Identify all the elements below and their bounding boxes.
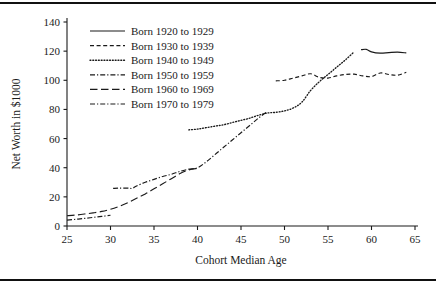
y-tick-label: 80 <box>49 103 61 115</box>
y-axis-label: Net Worth in $1000 <box>10 78 22 169</box>
series-line-6 <box>113 169 189 188</box>
x-tick-label: 40 <box>192 233 204 245</box>
series-line-6 <box>67 215 111 220</box>
chart-figure: 020406080100120140 253035404550556065 Ne… <box>0 0 436 283</box>
series-line-4 <box>189 112 267 170</box>
y-tick-label: 120 <box>44 45 61 57</box>
y-tick-label: 20 <box>49 191 61 203</box>
legend-label-1: Born 1920 to 1929 <box>131 25 214 37</box>
legend-label-3: Born 1940 to 1949 <box>131 54 214 66</box>
x-tick-label: 25 <box>62 233 74 245</box>
x-tick-label: 55 <box>323 233 335 245</box>
x-tick-label: 60 <box>366 233 378 245</box>
series-line-1 <box>361 49 406 53</box>
legend-label-5: Born 1960 to 1969 <box>131 83 214 95</box>
line-chart-svg: 020406080100120140 253035404550556065 Ne… <box>0 0 436 283</box>
y-tick-labels: 020406080100120140 <box>44 16 61 232</box>
x-axis-label: Cohort Median Age <box>195 254 286 267</box>
y-tick-label: 0 <box>55 220 61 232</box>
x-tick-label: 65 <box>410 233 422 245</box>
x-tick-label: 50 <box>279 233 291 245</box>
series-line-5 <box>67 168 198 215</box>
legend-label-4: Born 1950 to 1959 <box>131 69 214 81</box>
x-tick-label: 45 <box>236 233 248 245</box>
y-tick-label: 60 <box>49 133 61 145</box>
y-tick-label: 40 <box>49 162 61 174</box>
legend-label-2: Born 1930 to 1939 <box>131 40 214 52</box>
x-tick-label: 30 <box>105 233 117 245</box>
x-tick-labels: 253035404550556065 <box>62 233 422 245</box>
legend-label-6: Born 1970 to 1979 <box>131 98 214 110</box>
y-tick-label: 100 <box>44 74 61 86</box>
series-line-2 <box>276 72 407 81</box>
chart-page: 020406080100120140 253035404550556065 Ne… <box>0 0 436 283</box>
y-tick-label: 140 <box>44 16 61 28</box>
legend: Born 1920 to 1929Born 1930 to 1939Born 1… <box>90 25 214 110</box>
x-tick-label: 35 <box>149 233 161 245</box>
